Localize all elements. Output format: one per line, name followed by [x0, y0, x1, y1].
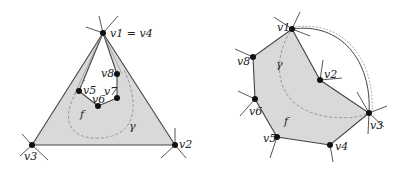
label-v3: v3 — [370, 119, 383, 132]
diagram-canvas: v1 = v4 v2 v3 v5 v6 v7 v8 f γ — [0, 0, 402, 176]
vertex-v5 — [76, 88, 82, 94]
label-v3: v3 — [24, 150, 37, 163]
label-v6: v6 — [249, 105, 262, 118]
label-v2: v2 — [179, 138, 192, 151]
label-v8: v8 — [101, 67, 114, 80]
right-face-f — [253, 29, 369, 145]
label-v2: v2 — [324, 68, 337, 81]
vertex-v4 — [327, 142, 333, 148]
vertex-v1 — [100, 30, 106, 36]
vertex-v6 — [252, 96, 258, 102]
vertex-v3 — [366, 110, 372, 116]
label-v4: v4 — [335, 140, 348, 153]
vertex-v2 — [317, 77, 323, 83]
vertex-v8 — [250, 54, 256, 60]
vertex-v2 — [172, 142, 178, 148]
label-v8: v8 — [237, 55, 250, 68]
label-v5: v5 — [263, 132, 276, 145]
right-diagram: v1 v2 v3 v4 v5 v6 v8 f γ — [235, 12, 387, 162]
label-gamma: γ — [276, 58, 283, 71]
label-v1: v1 — [277, 21, 290, 34]
label-v7: v7 — [104, 85, 117, 98]
vertex-v3 — [29, 142, 35, 148]
left-diagram: v1 = v4 v2 v3 v5 v6 v7 v8 f γ — [20, 16, 192, 163]
label-v1-v4: v1 = v4 — [110, 27, 153, 40]
label-gamma: γ — [129, 120, 136, 133]
vertex-v8 — [114, 71, 120, 77]
